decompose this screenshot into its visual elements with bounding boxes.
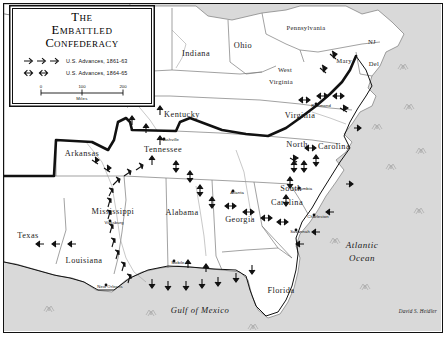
state-label-mississippi-16: Mississippi [92, 207, 135, 216]
double-arrow-icon [22, 68, 66, 78]
scale-tick-200: 200 [119, 84, 127, 89]
title-line-3: Confederacy [45, 36, 118, 50]
city-label-atlanta: Atlanta [230, 190, 244, 195]
state-label-virginia-7: Virginia [269, 78, 293, 85]
state-label-florida-21: Florida [267, 286, 294, 295]
scale-tick-0: 0 [40, 84, 43, 89]
water-label-atlantic-ocean: Atlantic [345, 240, 379, 250]
state-label-indiana-0: Indiana [182, 49, 210, 58]
state-label-carolina-13: Carolina [318, 142, 350, 151]
scale-unit: Miles [76, 96, 88, 101]
legend-entry-1864-65: U.S. Advances, 1864-65 [22, 67, 149, 79]
map-credit: David S. Heidler [398, 308, 438, 314]
city-label-columbia: Columbia [294, 186, 313, 191]
city-label-nashville: Nashville [161, 137, 179, 142]
state-label-georgia-18: Georgia [225, 215, 255, 224]
water-label-atlantic-ocean: Ocean [349, 253, 375, 263]
state-label-carolina-15: Carolina [271, 198, 303, 207]
map-title: The Embattled Confederacy [15, 11, 149, 49]
state-label-texas-19: Texas [17, 231, 38, 240]
state-label-alabama-17: Alabama [165, 208, 198, 217]
state-label-north-12: North [286, 140, 308, 149]
state-label-ohio-1: Ohio [234, 41, 252, 50]
state-label-mary-5: Mary [336, 57, 352, 64]
state-label-del-4: Del [369, 60, 379, 67]
legend-entry-1861-63: U.S. Advances, 1861-63 [22, 55, 149, 67]
state-label-arkansas-11: Arkansas [65, 149, 99, 158]
city-label-richmond: Richmond [311, 103, 331, 108]
single-arrow-icon [22, 56, 66, 66]
state-label-nj-3: NJ [368, 38, 376, 45]
state-label-virginia-9: Virginia [285, 111, 316, 120]
water-label-gulf-of-mexico: Gulf of Mexico [171, 305, 230, 315]
legend-label-1861-63: U.S. Advances, 1861-63 [66, 58, 127, 64]
legend-label-1864-65: U.S. Advances, 1864-65 [66, 70, 127, 76]
scale-tick-100: 100 [78, 84, 86, 89]
legend-box: The Embattled Confederacy U.S. Advances,… [12, 8, 152, 104]
city-label-new-orleans: New Orleans [97, 284, 122, 289]
state-label-kentucky-8: Kentucky [164, 110, 200, 119]
city-label-vicksburg: Vicksburg [104, 220, 124, 225]
city-label-charleston: Charleston [307, 214, 329, 219]
city-label-savannah: Savannah [290, 229, 310, 234]
scale-bar: 0 100 200 Miles [15, 82, 149, 104]
map-container: IndianaOhioPennsylvaniaNJDelMaryWestVirg… [0, 0, 448, 338]
state-label-tennessee-10: Tennessee [144, 145, 182, 154]
state-label-west-6: West [278, 66, 292, 73]
city-label-mobile: Mobile [172, 260, 186, 265]
state-label-pennsylvania-2: Pennsylvania [287, 24, 326, 31]
state-label-louisiana-20: Louisiana [66, 256, 103, 265]
